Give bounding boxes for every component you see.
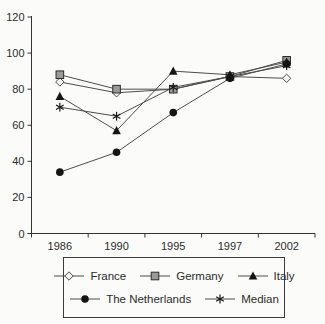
legend-sample-italy xyxy=(237,270,269,282)
x-tick-label: 1986 xyxy=(48,240,72,252)
square-icon xyxy=(113,85,121,93)
legend-item-median: Median xyxy=(204,293,279,305)
circle-icon xyxy=(81,296,89,304)
legend-item-italy: Italy xyxy=(237,270,295,282)
y-tick-label: 40 xyxy=(12,155,24,167)
legend-sample-france xyxy=(53,270,85,282)
legend-row-1: FranceGermanyItaly xyxy=(64,270,284,282)
circle-icon xyxy=(56,168,64,176)
legend-label-germany: Germany xyxy=(176,270,223,282)
legend-row-2: The NetherlandsMedian xyxy=(64,293,284,305)
x-tick-label: 1990 xyxy=(104,240,128,252)
series-line-the-netherlands xyxy=(60,64,287,172)
y-tick-label: 0 xyxy=(18,228,24,240)
legend-sample-the-netherlands xyxy=(69,293,101,305)
legend-label-median: Median xyxy=(241,293,279,305)
x-tick-label: 2002 xyxy=(274,240,298,252)
circle-icon xyxy=(113,149,121,157)
diamond-icon xyxy=(65,271,73,279)
marker-circle-filled xyxy=(81,296,89,304)
chart-figure: 02040608010012019861990199519972002 Fran… xyxy=(0,0,325,324)
square-icon xyxy=(56,71,64,79)
marker-diamond-open xyxy=(282,74,290,82)
y-tick-label: 100 xyxy=(6,47,24,59)
triangle-icon xyxy=(169,67,178,75)
marker-circle-filled xyxy=(169,109,177,117)
x-tick-label: 1997 xyxy=(218,240,242,252)
marker-triangle-filled xyxy=(169,67,178,75)
marker-square-gray xyxy=(113,85,121,93)
marker-circle-filled xyxy=(113,149,121,157)
marker-square-gray xyxy=(56,71,64,79)
square-icon xyxy=(151,272,159,280)
legend-item-germany: Germany xyxy=(139,270,223,282)
line-chart-plot: 02040608010012019861990199519972002 xyxy=(0,0,325,256)
legend-label-france: France xyxy=(90,270,126,282)
y-tick-label: 120 xyxy=(6,11,24,23)
marker-circle-filled xyxy=(56,168,64,176)
legend-item-the-netherlands: The Netherlands xyxy=(69,293,191,305)
legend-label-italy: Italy xyxy=(274,270,295,282)
marker-diamond-open xyxy=(65,271,73,279)
circle-icon xyxy=(169,109,177,117)
chart-legend: FranceGermanyItalyThe NetherlandsMedian xyxy=(63,257,285,318)
y-tick-label: 20 xyxy=(12,191,24,203)
diamond-icon xyxy=(282,74,290,82)
legend-sample-germany xyxy=(139,270,171,282)
triangle-icon xyxy=(56,92,65,100)
y-tick-label: 60 xyxy=(12,119,24,131)
y-tick-label: 80 xyxy=(12,83,24,95)
x-tick-label: 1995 xyxy=(161,240,185,252)
legend-label-the-netherlands: The Netherlands xyxy=(106,293,191,305)
marker-square-gray xyxy=(151,272,159,280)
marker-triangle-filled xyxy=(56,92,65,100)
legend-item-france: France xyxy=(53,270,126,282)
legend-sample-median xyxy=(204,293,236,305)
